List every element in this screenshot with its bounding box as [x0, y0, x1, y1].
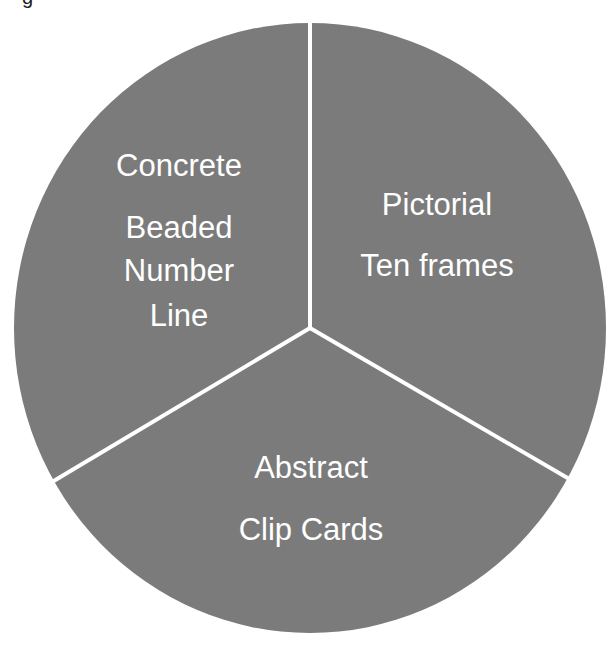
pie-svg: Concrete Beaded Number Line Pictorial Te… — [0, 0, 615, 654]
pie-diagram: Concrete Beaded Number Line Pictorial Te… — [0, 0, 615, 654]
segment-abstract-line-1: Clip Cards — [239, 512, 384, 547]
segment-pictorial-line-1: Ten frames — [360, 248, 513, 283]
segment-pictorial-title: Pictorial — [382, 187, 492, 222]
segment-concrete-line-3: Line — [150, 298, 209, 333]
segment-concrete-line-1: Beaded — [126, 210, 233, 245]
segment-concrete-line-2: Number — [124, 253, 234, 288]
segment-concrete-title: Concrete — [116, 148, 242, 183]
segment-abstract-title: Abstract — [254, 450, 368, 485]
